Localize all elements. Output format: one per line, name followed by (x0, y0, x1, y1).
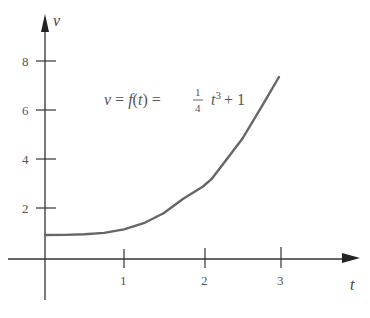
equation-rhs-exp: 3 (215, 89, 221, 101)
y-tick-label: 8 (22, 54, 29, 69)
x-axis-label: t (350, 276, 355, 293)
equation-frac-den: 4 (195, 102, 201, 114)
y-axis-label: v (53, 12, 61, 29)
x-ticks (124, 247, 281, 268)
equation-frac-num: 1 (195, 86, 201, 98)
equation-lhs: v = f(t) = (104, 91, 161, 109)
x-axis-arrow-icon (342, 253, 360, 263)
equation-rhs-tail: + 1 (224, 91, 245, 108)
x-tick-label: 3 (277, 273, 284, 288)
equation-rhs: t3+ 1 (211, 89, 245, 108)
x-tick-label: 1 (120, 273, 127, 288)
y-tick-label: 6 (22, 103, 29, 118)
y-ticks (36, 61, 56, 208)
y-tick-label: 2 (22, 201, 29, 216)
y-tick-label: 4 (22, 152, 29, 167)
x-tick-label: 2 (201, 273, 208, 288)
chart: v t 8 6 4 2 1 2 3 v = f(t) = 1 4 t3+ 1 (0, 0, 370, 318)
y-axis-arrow-icon (41, 14, 49, 32)
